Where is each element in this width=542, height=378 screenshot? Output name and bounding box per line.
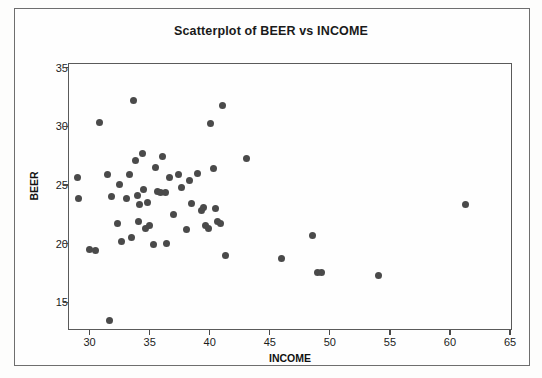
scatter-point	[96, 119, 103, 126]
scatter-point	[178, 184, 185, 191]
scatter-point	[139, 150, 146, 157]
scatter-point	[462, 201, 469, 208]
x-tick-label: 35	[135, 336, 165, 348]
scatter-point	[152, 164, 159, 171]
scatter-point	[126, 171, 133, 178]
scatter-point	[170, 211, 177, 218]
scatter-point	[144, 199, 151, 206]
scatter-point	[217, 220, 224, 227]
x-tick-label: 65	[495, 336, 525, 348]
scatter-point	[130, 97, 137, 104]
scatter-point	[309, 232, 316, 239]
scatter-point	[159, 153, 166, 160]
scatter-point	[162, 189, 169, 196]
scatter-points-layer	[69, 64, 511, 329]
chart-title: Scatterplot of BEER vs INCOME	[0, 24, 542, 38]
scatter-point	[136, 201, 143, 208]
scatter-point	[92, 247, 99, 254]
scatter-point	[108, 193, 115, 200]
x-tick-mark	[329, 330, 330, 335]
scatter-point	[278, 255, 285, 262]
x-axis-ticks: 3035404550556065	[68, 330, 512, 352]
x-tick-mark	[149, 330, 150, 335]
x-tick-label: 50	[315, 336, 345, 348]
x-tick-mark	[509, 330, 510, 335]
scatter-point	[205, 225, 212, 232]
scatter-point	[150, 241, 157, 248]
x-tick-mark	[449, 330, 450, 335]
scatter-point	[128, 234, 135, 241]
scatter-point	[222, 252, 229, 259]
plot-area	[68, 63, 512, 330]
scatter-point	[163, 240, 170, 247]
scatter-point	[188, 200, 195, 207]
x-tick-label: 30	[75, 336, 105, 348]
x-axis-title: INCOME	[68, 352, 512, 364]
scatter-point	[212, 205, 219, 212]
scatter-point	[186, 177, 193, 184]
scatter-point	[146, 222, 153, 229]
scatter-point	[106, 317, 113, 324]
scatter-point	[140, 186, 147, 193]
x-tick-label: 60	[435, 336, 465, 348]
scatter-point	[74, 174, 81, 181]
x-tick-label: 55	[375, 336, 405, 348]
scatter-point	[175, 171, 182, 178]
scatter-point	[200, 204, 207, 211]
scatter-point	[318, 269, 325, 276]
scatter-point	[219, 102, 226, 109]
x-tick-mark	[89, 330, 90, 335]
figure-canvas: Scatterplot of BEER vs INCOME BEER 15202…	[0, 0, 542, 378]
scatter-point	[207, 120, 214, 127]
scatter-point	[210, 165, 217, 172]
scatter-point	[183, 226, 190, 233]
scatter-point	[75, 195, 82, 202]
x-tick-label: 40	[195, 336, 225, 348]
scatter-point	[194, 170, 201, 177]
scatter-point	[116, 181, 123, 188]
x-tick-label: 45	[255, 336, 285, 348]
scatter-point	[104, 171, 111, 178]
scatter-point	[114, 220, 121, 227]
scatter-point	[132, 157, 139, 164]
x-tick-mark	[389, 330, 390, 335]
scatter-point	[118, 238, 125, 245]
y-axis-ticks: 1520253035	[36, 63, 68, 330]
scatter-point	[166, 174, 173, 181]
scatter-point	[134, 192, 141, 199]
scatter-point	[123, 195, 130, 202]
scatter-point	[135, 218, 142, 225]
scatter-point	[243, 155, 250, 162]
x-tick-mark	[209, 330, 210, 335]
x-tick-mark	[269, 330, 270, 335]
scatter-point	[375, 272, 382, 279]
